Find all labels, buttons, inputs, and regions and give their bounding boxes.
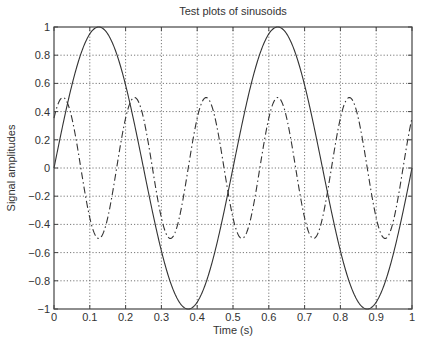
- line-chart: [0, 0, 428, 350]
